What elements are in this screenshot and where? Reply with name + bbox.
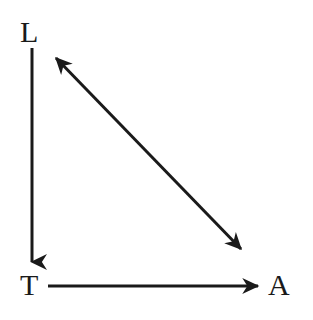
node-label-l: L [20,17,38,47]
diagram-svg [0,0,313,320]
node-label-t: T [20,270,38,300]
diagram-canvas-container: L T A [0,0,313,320]
node-label-a: A [268,270,290,300]
edge-arrow-a-to-l-bidirectional [56,58,241,249]
